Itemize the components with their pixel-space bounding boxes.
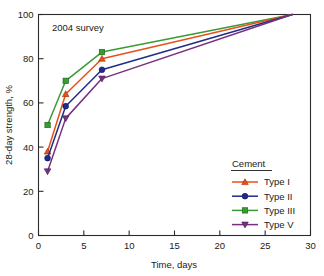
x-tick-label: 0 bbox=[36, 240, 41, 251]
y-tick-label: 40 bbox=[23, 142, 34, 153]
x-axis-tick-labels: 051015202530 bbox=[36, 240, 316, 251]
data-point-marker bbox=[99, 49, 104, 54]
series-polyline bbox=[48, 15, 293, 152]
x-tick-label: 30 bbox=[305, 240, 316, 251]
x-tick-label: 25 bbox=[260, 240, 271, 251]
legend-swatch-marker bbox=[242, 208, 247, 213]
series-polyline bbox=[48, 15, 293, 159]
survey-annotation: 2004 survey bbox=[52, 22, 104, 33]
x-tick-label: 5 bbox=[81, 240, 86, 251]
legend-entry-label: Type I bbox=[264, 176, 290, 187]
data-series-layer bbox=[44, 15, 292, 175]
y-tick-label: 20 bbox=[23, 186, 34, 197]
legend-entry-label: Type II bbox=[264, 191, 293, 202]
chart-container: 020406080100 051015202530 Time, days 28-… bbox=[0, 0, 324, 276]
data-point-marker bbox=[63, 103, 69, 109]
strength-vs-time-line-chart: 020406080100 051015202530 Time, days 28-… bbox=[0, 0, 324, 276]
data-point-marker bbox=[45, 122, 50, 127]
legend-swatch-marker bbox=[242, 193, 248, 199]
x-tick-label: 15 bbox=[169, 240, 180, 251]
y-tick-label: 100 bbox=[18, 9, 34, 20]
series-type-i bbox=[44, 15, 292, 155]
data-point-marker bbox=[99, 67, 105, 73]
y-axis-title: 28-day strength, % bbox=[3, 85, 14, 165]
legend-entry-label: Type V bbox=[264, 219, 294, 230]
data-point-marker bbox=[62, 116, 69, 122]
x-tick-label: 10 bbox=[124, 240, 135, 251]
data-point-marker bbox=[44, 169, 51, 175]
legend-entries: Type IType IIType IIIType V bbox=[232, 176, 295, 230]
x-tick-label: 20 bbox=[215, 240, 226, 251]
y-axis-tick-labels: 020406080100 bbox=[18, 9, 34, 241]
y-tick-label: 80 bbox=[23, 53, 34, 64]
chart-legend: Cement Type IType IIType IIIType V bbox=[231, 158, 295, 230]
legend-entry-type-i[interactable]: Type I bbox=[232, 176, 290, 187]
legend-entry-label: Type III bbox=[264, 205, 295, 216]
x-axis-title: Time, days bbox=[151, 259, 197, 270]
legend-entry-type-v[interactable]: Type V bbox=[232, 219, 294, 230]
series-type-ii bbox=[45, 15, 293, 162]
x-axis-tick-marks bbox=[39, 231, 311, 236]
legend-entry-type-iii[interactable]: Type III bbox=[232, 205, 295, 216]
plot-frame bbox=[39, 15, 311, 236]
legend-entry-type-ii[interactable]: Type II bbox=[232, 191, 293, 202]
y-axis-tick-marks bbox=[39, 15, 44, 236]
y-tick-label: 60 bbox=[23, 97, 34, 108]
y-tick-label: 0 bbox=[28, 230, 33, 241]
legend-title: Cement bbox=[232, 158, 266, 169]
data-point-marker bbox=[45, 155, 51, 161]
data-point-marker bbox=[63, 78, 68, 83]
